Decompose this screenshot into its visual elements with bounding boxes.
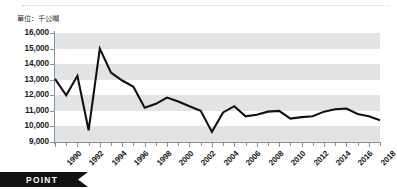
series-polyline	[55, 49, 380, 132]
point-banner-label: POINT	[26, 175, 58, 185]
